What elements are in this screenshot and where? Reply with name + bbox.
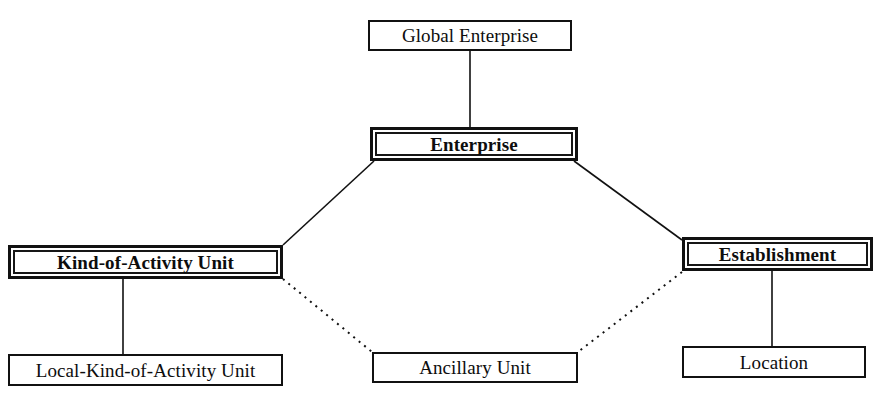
node-label: Local-Kind-of-Activity Unit — [30, 361, 262, 380]
node-enterprise[interactable]: Enterprise — [370, 127, 578, 161]
node-ancillary-unit[interactable]: Ancillary Unit — [372, 352, 578, 383]
node-label: Location — [734, 353, 814, 372]
node-establishment[interactable]: Establishment — [682, 237, 873, 271]
connector-layer — [0, 0, 878, 400]
edge-kind-of-activity-unit-to-ancillary-unit — [283, 279, 372, 352]
node-location[interactable]: Location — [682, 346, 866, 378]
node-label: Enterprise — [424, 135, 524, 154]
edge-establishment-to-ancillary-unit — [578, 272, 682, 352]
node-local-kind-of-activity-unit[interactable]: Local-Kind-of-Activity Unit — [8, 354, 283, 386]
node-label: Ancillary Unit — [413, 358, 537, 377]
edge-enterprise-to-establishment — [574, 161, 682, 240]
node-label: Global Enterprise — [396, 26, 544, 45]
node-kind-of-activity-unit[interactable]: Kind-of-Activity Unit — [8, 245, 283, 279]
node-label: Establishment — [713, 245, 842, 264]
node-global-enterprise[interactable]: Global Enterprise — [368, 20, 572, 51]
node-label: Kind-of-Activity Unit — [51, 253, 240, 272]
hierarchy-diagram: Global Enterprise Enterprise Kind-of-Act… — [0, 0, 878, 400]
edge-enterprise-to-kind-of-activity-unit — [283, 161, 374, 245]
